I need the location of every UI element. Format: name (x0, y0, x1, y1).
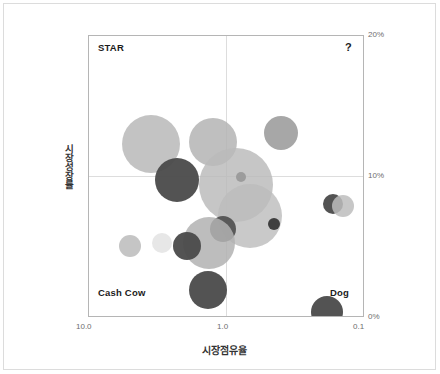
quadrant-label-star: STAR (98, 42, 124, 53)
bubble-point (173, 232, 201, 260)
bubble-point (268, 218, 280, 230)
x-axis-tick-0-1: 0.1 (353, 322, 364, 331)
y-axis-tick-20-percent: 20% (368, 30, 384, 39)
quadrant-label-cash-cow: Cash Cow (98, 287, 146, 298)
bubble-point (155, 158, 199, 202)
quadrant-label-question-mark: ? (345, 41, 352, 53)
x-axis-title: 시장점유율 (4, 342, 440, 357)
y-axis-tick-10-percent: 10% (368, 171, 384, 180)
bubble-point (119, 235, 141, 257)
bubble-point (311, 296, 343, 317)
chart-card: STAR ? Cash Cow Dog 20% 10% 0% 10.0 1.0 … (3, 3, 436, 370)
bubble-point (264, 116, 298, 150)
bcg-matrix-chart: STAR ? Cash Cow Dog 20% 10% 0% 10.0 1.0 … (4, 4, 440, 374)
bubble-point (332, 195, 354, 217)
y-axis-tick-0-percent: 0% (368, 312, 380, 321)
bubble-point (236, 172, 246, 182)
quadrant-label-dog: Dog (330, 287, 349, 298)
bubble-point (189, 271, 227, 309)
y-axis-title: 시장성장률 (53, 144, 73, 189)
bubble-point (152, 233, 172, 253)
plot-frame (88, 35, 364, 317)
x-axis-tick-10: 10.0 (76, 322, 92, 331)
x-axis-tick-1: 1.0 (217, 322, 228, 331)
